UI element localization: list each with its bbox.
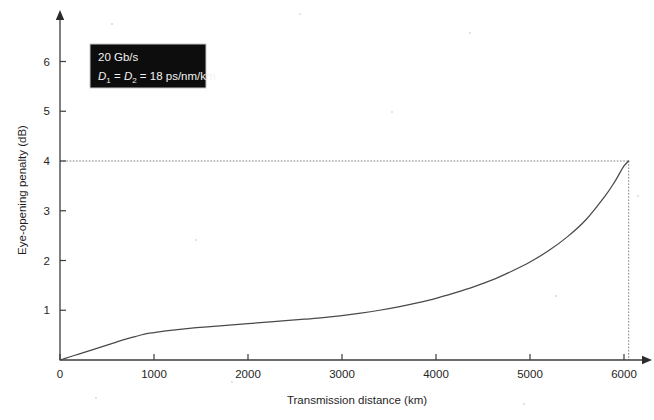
legend-equals-1: =	[111, 70, 124, 82]
legend-d1-symbol: D	[98, 70, 106, 82]
eye-opening-penalty-chart: 0100020003000400050006000 123456 Transmi…	[0, 0, 654, 420]
legend-dispersion-value: 18 ps/nm/km	[150, 70, 216, 82]
x-tick-label: 0	[57, 368, 63, 380]
x-tick-label: 2000	[235, 368, 261, 380]
x-tick-label: 1000	[141, 368, 167, 380]
y-tick-label: 1	[44, 304, 50, 316]
legend-panel: 20 Gb/s D1 = D2 = 18 ps/nm/km	[90, 44, 216, 88]
y-tick-label: 3	[44, 205, 50, 217]
y-tick-label: 5	[44, 105, 50, 117]
legend-equals-2: =	[137, 70, 150, 82]
x-tick-label: 3000	[329, 368, 355, 380]
y-tick-label: 4	[44, 155, 51, 167]
x-tick-label: 5000	[517, 368, 543, 380]
legend-bitrate-label: 20 Gb/s	[98, 51, 139, 63]
x-tick-label: 4000	[423, 368, 449, 380]
y-tick-label: 6	[44, 56, 50, 68]
y-tick-label: 2	[44, 255, 50, 267]
x-axis-title: Transmission distance (km)	[287, 394, 427, 406]
legend-d2-symbol: D	[124, 70, 132, 82]
x-tick-label: 6000	[611, 368, 637, 380]
y-axis-title: Eye-opening penalty (dB)	[16, 125, 28, 255]
